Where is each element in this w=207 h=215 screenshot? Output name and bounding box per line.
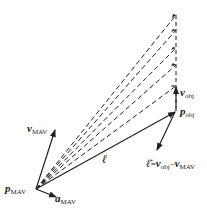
a-mav-label: aMAV bbox=[55, 192, 76, 206]
diagram-canvas: vobj pobj vMAV pMAV aMAV ℓ ℓ̇=vobj−vMAV bbox=[0, 0, 207, 215]
ell-dot-equation: ℓ̇=vobj−vMAV bbox=[146, 157, 195, 171]
ell-dot-arrow bbox=[157, 112, 175, 150]
ell-label: ℓ bbox=[102, 152, 107, 166]
ell-vector-arrow bbox=[36, 112, 175, 189]
v-obj-label: vobj bbox=[180, 86, 194, 100]
v-mav-label: vMAV bbox=[27, 122, 47, 136]
a-mav-arrow bbox=[36, 189, 56, 197]
p-obj-label: pobj bbox=[179, 105, 195, 119]
p-mav-label: pMAV bbox=[4, 182, 26, 196]
